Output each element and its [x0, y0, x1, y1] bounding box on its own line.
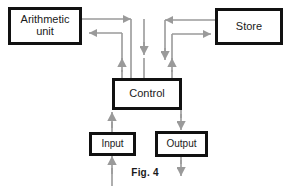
- block-label-input: Input: [99, 139, 125, 150]
- block-label-control: Control: [127, 88, 166, 100]
- block-label-store: Store: [234, 21, 264, 33]
- block-store: Store: [215, 8, 283, 45]
- block-arithmetic-unit: Arithmetic unit: [8, 7, 82, 45]
- figure-caption: Fig. 4: [0, 167, 290, 178]
- block-label-output: Output: [164, 139, 198, 150]
- figure-diagram: Arithmetic unit Store Control Input Outp…: [0, 0, 290, 188]
- block-label-arithmetic-unit: Arithmetic unit: [19, 14, 72, 37]
- block-control: Control: [112, 78, 182, 110]
- block-output: Output: [155, 131, 208, 157]
- block-input: Input: [89, 132, 136, 156]
